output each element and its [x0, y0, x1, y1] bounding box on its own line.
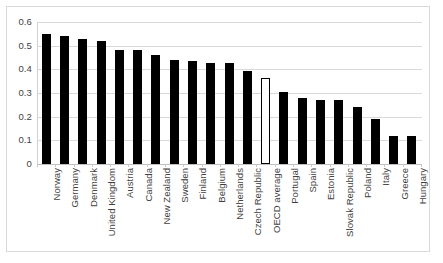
bar: [115, 50, 124, 164]
x-axis-tick: [110, 164, 111, 167]
x-axis-category-label: Slovak Republic: [344, 168, 356, 252]
x-axis-category-label: Estonia: [325, 168, 337, 252]
chart-container: 0.60.50.40.30.20.10 NorwayGermanyDenmark…: [6, 6, 430, 252]
x-axis-category-label: Czech Republic: [252, 168, 264, 252]
bar: [279, 92, 288, 164]
x-axis-tick: [256, 164, 257, 167]
x-axis-category-label: Greece: [399, 168, 411, 252]
bar: [188, 61, 197, 164]
bar: [316, 100, 325, 164]
x-axis-tick: [92, 164, 93, 167]
x-axis-tick: [403, 164, 404, 167]
x-axis-category-label: Finland: [197, 168, 209, 252]
bar: [133, 50, 142, 164]
x-axis-category-label: Denmark: [88, 168, 100, 252]
bar: [353, 107, 362, 164]
x-axis-category-label: Belgium: [216, 168, 228, 252]
x-axis-tick: [220, 164, 221, 167]
x-axis-category-label: New Zealand: [161, 168, 173, 252]
bar: [170, 60, 179, 164]
x-axis-category-label: Italy: [380, 168, 392, 252]
x-axis-category-label: Hungary: [417, 168, 429, 252]
bar: [42, 34, 51, 164]
x-axis-category-label: Canada: [143, 168, 155, 252]
bar: [97, 41, 106, 164]
x-axis-tick: [384, 164, 385, 167]
bar: [78, 39, 87, 164]
bar: [389, 136, 398, 164]
x-axis-tick: [293, 164, 294, 167]
x-axis-category-label: OECD average: [271, 168, 283, 252]
x-axis-category-label: Norway: [51, 168, 63, 252]
x-axis-category-label: Austria: [124, 168, 136, 252]
bar: [334, 100, 343, 164]
y-axis: 0.60.50.40.30.20.10: [7, 7, 35, 253]
bar: [298, 98, 307, 164]
x-axis-tick: [183, 164, 184, 167]
bar: [206, 63, 215, 164]
x-axis-category-label: United Kingdom: [106, 168, 118, 252]
x-axis-tick: [330, 164, 331, 167]
x-axis-tick: [37, 164, 38, 167]
bar: [225, 63, 234, 164]
x-axis-tick: [55, 164, 56, 167]
x-axis-tick: [128, 164, 129, 167]
y-axis-tick-label: 0: [7, 159, 32, 169]
y-axis-tick-label: 0.4: [7, 64, 32, 74]
bar-highlighted: [261, 78, 270, 164]
bar: [371, 119, 380, 164]
y-axis-tick-label: 0.2: [7, 112, 32, 122]
x-axis-category-label: Sweden: [179, 168, 191, 252]
y-axis-tick-label: 0.3: [7, 88, 32, 98]
x-axis-tick: [275, 164, 276, 167]
bar-series: [37, 22, 421, 164]
x-axis-category-label: Portugal: [289, 168, 301, 252]
x-axis-tick: [366, 164, 367, 167]
x-axis-category-labels: NorwayGermanyDenmarkUnited KingdomAustri…: [37, 168, 421, 253]
x-axis-tick: [147, 164, 148, 167]
bar: [243, 71, 252, 164]
x-axis-category-label: Spain: [307, 168, 319, 252]
bar: [60, 36, 69, 164]
bar: [407, 136, 416, 164]
x-axis-tick: [202, 164, 203, 167]
x-axis-tick: [74, 164, 75, 167]
x-axis-tick: [348, 164, 349, 167]
x-axis-tick: [421, 164, 422, 167]
chart-plot-wrapper: 0.60.50.40.30.20.10 NorwayGermanyDenmark…: [7, 7, 431, 253]
x-axis-category-label: Netherlands: [234, 168, 246, 252]
x-axis-tick: [238, 164, 239, 167]
y-axis-tick-label: 0.6: [7, 17, 32, 27]
bar: [151, 55, 160, 164]
y-axis-tick-label: 0.5: [7, 41, 32, 51]
x-axis-category-label: Germany: [69, 168, 81, 252]
y-axis-tick-label: 0.1: [7, 135, 32, 145]
x-axis-category-label: Poland: [362, 168, 374, 252]
x-axis-tick: [165, 164, 166, 167]
x-axis-tick: [311, 164, 312, 167]
